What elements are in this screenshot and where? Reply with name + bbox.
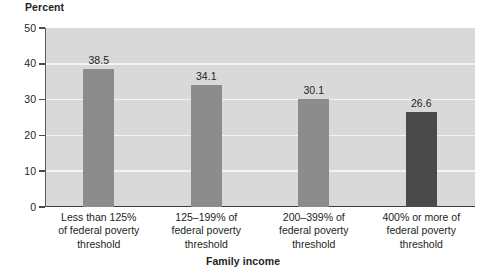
y-axis-tick-label: 20 xyxy=(24,128,36,142)
category-label-line: federal poverty xyxy=(254,224,374,237)
bar-value-label: 34.1 xyxy=(196,70,216,83)
y-axis-tick-label: 40 xyxy=(24,56,36,70)
x-axis-category-label: 400% or more offederal povertythreshold xyxy=(361,211,481,251)
category-label-line: federal poverty xyxy=(361,224,481,237)
bar: 38.5 xyxy=(83,69,114,207)
category-label-line: 400% or more of xyxy=(361,211,481,224)
category-label-line: threshold xyxy=(39,238,159,251)
x-axis-title: Family income xyxy=(0,255,486,267)
bar-chart: Percent 01020304050 38.534.130.126.6 Les… xyxy=(0,0,486,274)
category-label-line: threshold xyxy=(361,238,481,251)
bar: 30.1 xyxy=(298,99,329,207)
bar-value-label: 26.6 xyxy=(411,97,431,110)
y-axis-tick-mark xyxy=(39,206,45,208)
y-axis-tick-label: 10 xyxy=(24,164,36,178)
category-label-line: threshold xyxy=(254,238,374,251)
y-axis-tick-mark xyxy=(39,99,45,101)
y-axis-tick-mark xyxy=(39,63,45,65)
category-label-line: of federal poverty xyxy=(39,224,159,237)
category-label-line: Less than 125% xyxy=(39,211,159,224)
y-axis-tick-label: 50 xyxy=(24,21,36,35)
category-label-line: federal poverty xyxy=(146,224,266,237)
x-axis-category-label: 200–399% offederal povertythreshold xyxy=(254,211,374,251)
x-axis-category-label: Less than 125%of federal povertythreshol… xyxy=(39,211,159,251)
category-label-line: 200–399% of xyxy=(254,211,374,224)
y-axis-tick-label: 30 xyxy=(24,92,36,106)
category-label-line: 125–199% of xyxy=(146,211,266,224)
y-axis-tick-label: 0 xyxy=(30,200,36,214)
y-axis-tick-mark xyxy=(39,135,45,137)
gridline xyxy=(46,63,475,65)
bar-value-label: 38.5 xyxy=(89,54,109,67)
y-axis-tick-mark xyxy=(39,170,45,172)
y-axis-tick-mark xyxy=(39,27,45,29)
y-axis-title: Percent xyxy=(25,1,64,13)
bar-value-label: 30.1 xyxy=(304,84,324,97)
x-axis-category-label: 125–199% offederal povertythreshold xyxy=(146,211,266,251)
bar: 26.6 xyxy=(406,112,437,207)
bar: 34.1 xyxy=(191,85,222,207)
category-label-line: threshold xyxy=(146,238,266,251)
